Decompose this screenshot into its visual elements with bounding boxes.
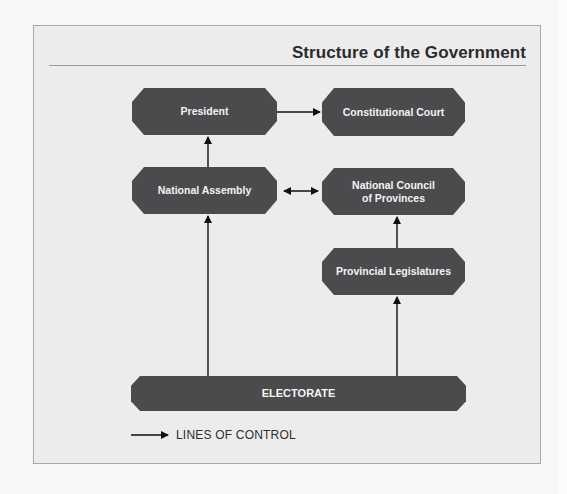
legend-label: LINES OF CONTROL (176, 428, 296, 442)
control-lines (0, 0, 567, 494)
